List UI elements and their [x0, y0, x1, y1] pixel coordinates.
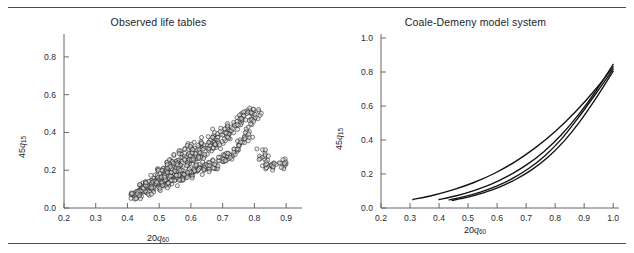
scatter-point	[196, 168, 200, 172]
scatter-point	[167, 158, 171, 162]
scatter-point	[163, 175, 167, 179]
model-curve	[439, 64, 613, 199]
scatter-point	[161, 183, 165, 187]
scatter-point	[239, 140, 243, 144]
x-tick-label: 0.2	[375, 213, 387, 223]
scatter-point	[173, 169, 177, 173]
scatter-plot-left: 0.00.20.40.60.80.20.30.40.50.60.70.80.9	[0, 8, 317, 242]
x-tick-label: 0.4	[121, 213, 133, 223]
y-tick-label: 0.6	[44, 90, 56, 100]
scatter-point	[282, 161, 286, 165]
x-tick-label: 0.8	[549, 213, 561, 223]
scatter-point	[256, 107, 260, 111]
x-tick-label: 0.8	[248, 213, 260, 223]
scatter-point	[149, 173, 153, 177]
scatter-point	[244, 127, 248, 131]
x-tick-label: 0.6	[491, 213, 503, 223]
y-tick-label: 1.0	[361, 33, 373, 43]
x-tick-label: 0.6	[185, 213, 197, 223]
x-tick-label: 0.2	[58, 213, 70, 223]
bottom-horizontal-rule	[8, 243, 626, 244]
scatter-point	[247, 132, 251, 136]
scatter-point	[201, 160, 205, 164]
y-tick-label: 0.8	[361, 67, 373, 77]
scatter-point	[138, 183, 142, 187]
scatter-point	[183, 151, 187, 155]
scatter-point	[190, 176, 194, 180]
y-axis-label-right: 45q15	[333, 128, 344, 150]
scatter-point	[240, 116, 244, 120]
scatter-point	[200, 172, 204, 176]
scatter-point	[210, 135, 214, 139]
scatter-point	[202, 168, 206, 172]
scatter-point	[155, 180, 159, 184]
scatter-point	[183, 158, 187, 162]
scatter-point	[213, 143, 217, 147]
scatter-point	[174, 173, 178, 177]
scatter-point	[218, 130, 222, 134]
y-tick-label: 0.8	[44, 52, 56, 62]
model-curve	[449, 69, 613, 200]
scatter-point	[186, 170, 190, 174]
scatter-point	[253, 112, 257, 116]
scatter-point	[175, 163, 179, 167]
scatter-point	[168, 174, 172, 178]
scatter-point	[226, 124, 230, 128]
scatter-point	[197, 155, 201, 159]
y-tick-label: 0.2	[44, 165, 56, 175]
scatter-point	[199, 135, 203, 139]
scatter-point	[135, 192, 139, 196]
scatter-point	[207, 170, 211, 174]
x-tick-label: 1.0	[607, 213, 619, 223]
scatter-point	[257, 157, 261, 161]
scatter-point	[172, 152, 176, 156]
scatter-point	[223, 159, 227, 163]
scatter-point	[211, 166, 215, 170]
scatter-point	[232, 147, 236, 151]
x-axis-label-right: 20q60	[435, 224, 515, 235]
x-tick-label: 0.5	[153, 213, 165, 223]
scatter-point	[211, 159, 215, 163]
y-tick-label: 0.2	[361, 169, 373, 179]
y-tick-label: 0.4	[44, 127, 56, 137]
scatter-point	[175, 184, 179, 188]
scatter-point	[265, 162, 269, 166]
scatter-point	[263, 148, 267, 152]
y-tick-label: 0.6	[361, 101, 373, 111]
scatter-point	[203, 152, 207, 156]
axes-group: 0.00.20.40.60.80.20.30.40.50.60.70.80.9	[44, 34, 302, 223]
y-axis-label-right-var: q	[333, 135, 344, 140]
scatter-point	[279, 165, 283, 169]
scatter-points-group	[129, 106, 288, 201]
scatter-point	[259, 111, 263, 115]
scatter-point	[246, 139, 250, 143]
scatter-point	[194, 163, 198, 167]
scatter-point	[191, 157, 195, 161]
scatter-point	[252, 119, 256, 123]
scatter-point	[185, 175, 189, 179]
x-tick-label: 0.7	[520, 213, 532, 223]
scatter-point	[218, 147, 222, 151]
scatter-point	[242, 110, 246, 114]
scatter-point	[218, 143, 222, 147]
panels-row: Observed life tables 45q15 20q60 0.00.20…	[0, 8, 634, 242]
scatter-point	[183, 147, 187, 151]
y-tick-label: 0.0	[44, 203, 56, 213]
scatter-point	[177, 178, 181, 182]
scatter-point	[134, 197, 138, 201]
axes-group: 0.00.20.40.60.81.00.20.30.40.50.60.70.80…	[361, 33, 619, 223]
scatter-point	[199, 141, 203, 145]
x-tick-label: 0.4	[433, 213, 445, 223]
scatter-point	[185, 164, 189, 168]
x-tick-label: 0.9	[280, 213, 292, 223]
scatter-point	[144, 181, 148, 185]
scatter-point	[207, 140, 211, 144]
x-tick-label: 0.3	[404, 213, 416, 223]
scatter-point	[255, 147, 259, 151]
panel-observed-life-tables: Observed life tables 45q15 20q60 0.00.20…	[0, 8, 317, 242]
scatter-point	[150, 186, 154, 190]
scatter-point	[266, 154, 270, 158]
scatter-point	[130, 192, 134, 196]
scatter-point	[226, 135, 230, 139]
scatter-point	[193, 169, 197, 173]
